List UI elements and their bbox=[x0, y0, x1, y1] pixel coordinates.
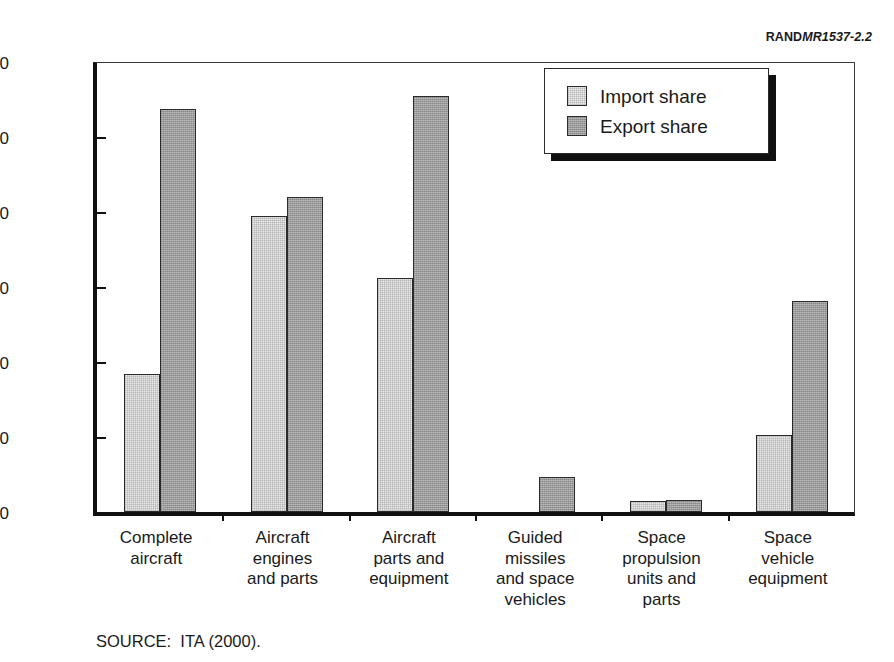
legend-swatch-import-icon bbox=[567, 86, 587, 106]
figure-id: RANDMR1537-2.2 bbox=[766, 30, 872, 44]
bar-import bbox=[756, 435, 792, 512]
x-tick-mark bbox=[222, 512, 224, 521]
source-note: SOURCE: ITA (2000). bbox=[96, 632, 261, 651]
bar-export bbox=[539, 477, 575, 512]
x-tick-mark bbox=[728, 512, 730, 521]
x-category-label: Aircraft engines and parts bbox=[219, 528, 345, 590]
y-tick-mark bbox=[97, 137, 106, 139]
figure-id-number: MR1537-2.2 bbox=[802, 30, 872, 44]
bar-import bbox=[377, 278, 413, 512]
x-category-label: Space vehicle equipment bbox=[725, 528, 851, 590]
x-tick-mark bbox=[601, 512, 603, 521]
chart-legend: Import share Export share bbox=[544, 68, 769, 154]
bar-export bbox=[287, 197, 323, 512]
x-tick-mark bbox=[349, 512, 351, 521]
bar-export bbox=[160, 109, 196, 513]
bar-export bbox=[792, 301, 828, 513]
bar-export bbox=[666, 500, 702, 512]
y-tick-label: 40 bbox=[0, 205, 9, 222]
x-category-label: Space propulsion units and parts bbox=[598, 528, 724, 611]
bar-import bbox=[630, 501, 666, 512]
y-tick-label: 10 bbox=[0, 430, 9, 447]
x-category-label: Complete aircraft bbox=[93, 528, 219, 569]
legend-item-export[interactable]: Export share bbox=[567, 111, 768, 141]
figure-id-brand: RAND bbox=[766, 30, 803, 44]
y-tick-label: 0 bbox=[0, 505, 9, 522]
y-tick-label: 20 bbox=[0, 355, 9, 372]
bar-import bbox=[251, 216, 287, 512]
legend-label-import: Import share bbox=[600, 87, 707, 106]
y-tick-mark bbox=[97, 212, 106, 214]
legend-item-import[interactable]: Import share bbox=[567, 81, 768, 111]
y-tick-label: 60 bbox=[0, 55, 9, 72]
legend-label-export: Export share bbox=[600, 117, 708, 136]
x-tick-mark bbox=[475, 512, 477, 521]
bar-import bbox=[124, 374, 160, 512]
x-category-label: Guided missiles and space vehicles bbox=[472, 528, 598, 611]
y-tick-mark bbox=[97, 437, 106, 439]
legend-swatch-export-icon bbox=[567, 116, 587, 136]
bar-export bbox=[413, 96, 449, 512]
y-tick-label: 30 bbox=[0, 280, 9, 297]
y-tick-mark bbox=[97, 362, 106, 364]
y-tick-mark bbox=[97, 287, 106, 289]
x-category-label: Aircraft parts and equipment bbox=[346, 528, 472, 590]
y-tick-label: 50 bbox=[0, 130, 9, 147]
